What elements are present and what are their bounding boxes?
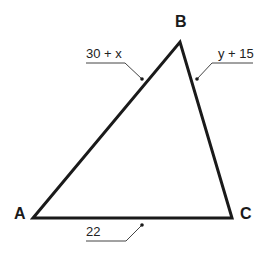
side-label-ac: 22 (86, 224, 100, 239)
leader-line-bc (197, 63, 253, 79)
side-label-bc: y + 15 (218, 46, 254, 61)
leader-line-ab (86, 63, 142, 79)
vertex-label-a: A (14, 205, 26, 222)
side-label-ac-group: 22 (86, 223, 144, 241)
leader-dot-bc (195, 77, 199, 81)
side-label-ab: 30 + x (86, 46, 122, 61)
triangle-diagram: B A C 30 + x y + 15 22 (0, 0, 270, 257)
triangle-abc (33, 42, 232, 218)
leader-dot-ac (140, 223, 144, 227)
vertex-label-b: B (175, 13, 187, 30)
leader-dot-ab (140, 77, 144, 81)
side-label-ab-group: 30 + x (86, 46, 144, 81)
side-label-bc-group: y + 15 (195, 46, 254, 81)
vertex-label-c: C (240, 205, 252, 222)
